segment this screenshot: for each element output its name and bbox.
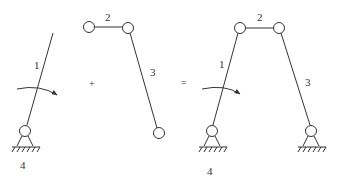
- link-1-line: [213, 33, 238, 125]
- left-crank-assembly: [12, 33, 57, 152]
- link-1-line: [27, 33, 53, 125]
- middle-dyad-assembly: [84, 22, 165, 139]
- ground-4-label: 4: [20, 160, 26, 171]
- ground-hatch-icon: [199, 147, 227, 152]
- joint: [123, 23, 134, 34]
- joint: [274, 23, 285, 34]
- joint: [84, 22, 95, 33]
- equals-operator: =: [181, 78, 187, 88]
- result-ground-4-label: 4: [207, 166, 213, 177]
- link-1-label: 1: [34, 60, 40, 71]
- joint: [154, 128, 165, 139]
- rotation-arrow-icon: [202, 87, 240, 94]
- linkage-diagram: [0, 0, 337, 183]
- joint: [235, 23, 246, 34]
- ground-hatch-icon: [298, 147, 326, 152]
- ground-pivot-joint: [20, 126, 31, 137]
- ground-hatch-icon: [12, 147, 40, 152]
- result-link-1-label: 1: [219, 59, 225, 70]
- plus-operator: +: [89, 79, 95, 89]
- link-3-label: 3: [150, 67, 156, 78]
- ground-pivot-joint: [306, 126, 317, 137]
- result-link-3-label: 3: [305, 77, 311, 88]
- link-2-label: 2: [105, 12, 111, 23]
- link-3-line: [130, 33, 157, 128]
- result-link-2-label: 2: [257, 12, 263, 23]
- ground-pivot-joint: [207, 126, 218, 137]
